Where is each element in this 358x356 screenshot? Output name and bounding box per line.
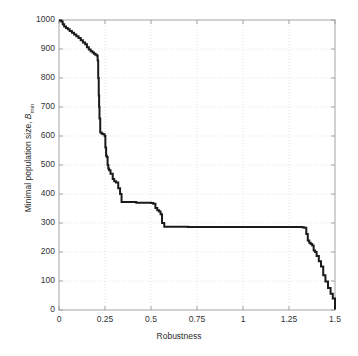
x-tick-label: 1.5 xyxy=(315,314,355,324)
y-axis-label-subscript: min xyxy=(28,103,35,113)
grid-lines xyxy=(59,20,335,310)
x-tick-label: 1.25 xyxy=(269,314,309,324)
y-axis-label-symbol: B xyxy=(23,113,33,119)
chart-figure: 00.250.50.7511.251.501002003004005006007… xyxy=(0,0,358,356)
y-tick-label: 1000 xyxy=(11,14,55,24)
y-tick-label: 100 xyxy=(11,275,55,285)
x-axis-label: Robustness xyxy=(0,331,358,341)
y-axis-label: Minimal population size, Bmin xyxy=(23,43,35,273)
x-tick-label: 0.75 xyxy=(177,314,217,324)
plot-canvas xyxy=(0,0,358,356)
x-tick-label: 1 xyxy=(223,314,263,324)
x-tick-label: 0.25 xyxy=(85,314,125,324)
y-tick-label: 0 xyxy=(11,304,55,314)
y-axis-label-text: Minimal population size, xyxy=(23,119,33,212)
x-tick-label: 0 xyxy=(39,314,79,324)
x-tick-label: 0.5 xyxy=(131,314,171,324)
